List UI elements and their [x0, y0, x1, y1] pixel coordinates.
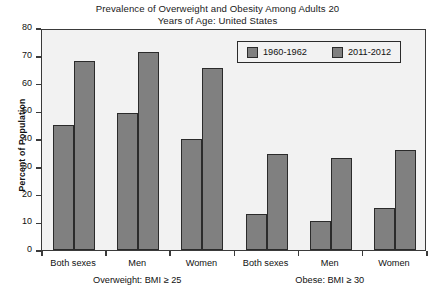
y-axis-tick-label: 80 — [22, 22, 32, 32]
y-axis-tick-label: 20 — [22, 189, 32, 199]
x-axis-category-label: Women — [186, 258, 218, 268]
legend-swatch-1960-1962 — [247, 47, 258, 58]
bar — [74, 61, 95, 250]
y-axis-tick-mark — [36, 223, 41, 225]
y-axis-title: Percent of Population — [17, 65, 27, 225]
y-axis-tick-label: 30 — [22, 161, 32, 171]
x-axis-category-label: Men — [128, 258, 146, 268]
bar — [331, 158, 352, 250]
x-axis-group-label: Overweight: BMI ≥ 25 — [93, 275, 181, 285]
x-axis-tick-mark — [362, 251, 364, 256]
bar — [202, 68, 223, 250]
bar — [53, 125, 74, 250]
x-axis-tick-mark — [169, 251, 171, 256]
y-axis-tick-label: 0 — [27, 244, 32, 254]
legend-entry-2011-2012: 2011-2012 — [332, 47, 391, 58]
bar — [117, 113, 138, 250]
chart-title-line-1: Prevalence of Overweight and Obesity Amo… — [96, 3, 340, 14]
x-axis-category-label: Both sexes — [243, 258, 288, 268]
legend-entry-1960-1962: 1960-1962 — [247, 47, 307, 58]
bar — [246, 214, 267, 250]
legend-swatch-2011-2012 — [332, 47, 343, 58]
x-axis-category-label: Both sexes — [50, 258, 95, 268]
y-axis-tick-label: 60 — [22, 78, 32, 88]
x-axis-tick-mark — [426, 251, 428, 256]
y-axis-tick-mark — [36, 56, 41, 58]
bar — [267, 154, 288, 250]
legend-label-1960-1962: 1960-1962 — [263, 47, 307, 57]
chart-title-line-2: Years of Age: United States — [0, 15, 435, 27]
bar — [374, 208, 395, 250]
y-axis-tick-mark — [36, 195, 41, 197]
y-axis-tick-mark — [36, 112, 41, 114]
x-axis-category-label: Men — [321, 258, 339, 268]
bar — [138, 52, 159, 250]
x-axis-group-label: Obese: BMI ≥ 30 — [295, 275, 364, 285]
x-axis-tick-mark — [41, 251, 43, 256]
legend-label-2011-2012: 2011-2012 — [348, 47, 391, 57]
y-axis-tick-mark — [36, 167, 41, 169]
y-axis-tick-label: 40 — [22, 133, 32, 143]
legend: 1960-1962 2011-2012 — [237, 41, 401, 63]
y-axis-tick-label: 50 — [22, 105, 32, 115]
bar — [395, 150, 416, 250]
y-axis-tick-label: 10 — [22, 216, 32, 226]
x-axis-category-label: Women — [378, 258, 410, 268]
y-axis-tick-mark — [36, 28, 41, 30]
chart-title: Prevalence of Overweight and Obesity Amo… — [0, 3, 435, 27]
x-axis-tick-mark — [298, 251, 300, 256]
y-axis-tick-label: 70 — [22, 50, 32, 60]
bars-layer — [42, 30, 425, 250]
bar — [181, 139, 202, 250]
y-axis-tick-mark — [36, 139, 41, 141]
bar — [310, 221, 331, 250]
y-axis-tick-mark — [36, 84, 41, 86]
x-axis-tick-mark — [234, 251, 236, 256]
bar-chart: Prevalence of Overweight and Obesity Amo… — [0, 0, 435, 304]
x-axis-tick-mark — [105, 251, 107, 256]
